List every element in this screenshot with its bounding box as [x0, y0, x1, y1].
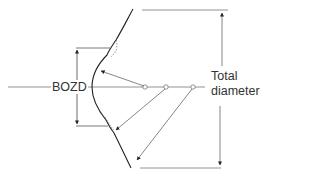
bozd-label: BOZD: [51, 80, 88, 94]
centre-of-curvature-2: [164, 85, 168, 89]
total-diameter-line2: diameter: [211, 84, 260, 99]
radius-arrow-peripheral: [137, 89, 192, 160]
radius-arrow-central: [101, 71, 144, 86]
peripheral-curve-lower: [105, 117, 114, 130]
centre-of-curvature-3: [191, 85, 195, 89]
radius-arrow-mid: [116, 89, 165, 130]
lens-profile-curve: [92, 9, 133, 168]
total-diameter-label: Total diameter: [211, 69, 260, 99]
total-diameter-line1: Total: [211, 69, 260, 84]
